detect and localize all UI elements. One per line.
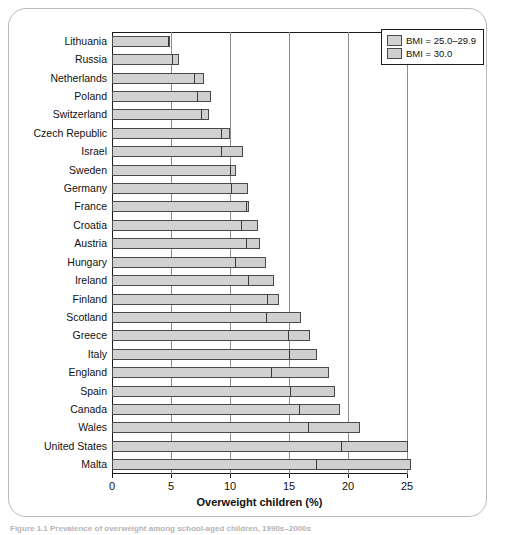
category-label: Austria xyxy=(74,238,107,249)
legend-label: BMI = 30.0 xyxy=(406,49,452,59)
bar-row: Malta xyxy=(112,459,407,470)
category-label: Sweden xyxy=(69,165,107,176)
category-label: Hungary xyxy=(67,257,107,268)
category-label: Greece xyxy=(73,330,107,341)
bar-segment-obese xyxy=(221,128,230,139)
bar-segment-overweight xyxy=(112,330,289,341)
bar-segment-overweight xyxy=(112,183,232,194)
stacked-bar xyxy=(112,459,411,470)
category-label: France xyxy=(74,201,107,212)
tick-label-10: 10 xyxy=(224,480,236,492)
category-label: Wales xyxy=(78,422,107,433)
bar-segment-overweight xyxy=(112,220,242,231)
category-label: Italy xyxy=(88,349,107,360)
bar-segment-obese xyxy=(308,422,360,433)
legend-item: BMI = 25.0–29.9 xyxy=(387,34,476,47)
bar-row: England xyxy=(112,367,407,378)
bar-row: Czech Republic xyxy=(112,128,407,139)
legend-label: BMI = 25.0–29.9 xyxy=(406,36,476,46)
bar-segment-overweight xyxy=(112,73,195,84)
bar-segment-obese xyxy=(267,294,279,305)
stacked-bar xyxy=(112,349,317,360)
bar-row: Croatia xyxy=(112,220,407,231)
category-label: Canada xyxy=(70,404,107,415)
category-label: Russia xyxy=(75,54,107,65)
stacked-bar xyxy=(112,238,260,249)
bar-segment-obese xyxy=(246,201,250,212)
stacked-bar xyxy=(112,73,204,84)
category-label: Germany xyxy=(64,183,107,194)
bar-segment-obese xyxy=(289,349,317,360)
category-label: Netherlands xyxy=(50,73,107,84)
bar-row: Greece xyxy=(112,330,407,341)
category-label: Finland xyxy=(73,294,107,305)
category-label: Spain xyxy=(80,386,107,397)
category-label: England xyxy=(68,367,107,378)
bar-row: Israel xyxy=(112,146,407,157)
stacked-bar xyxy=(112,36,170,47)
bar-segment-obese xyxy=(197,91,211,102)
tick-mark-0 xyxy=(112,474,113,478)
tick-mark-25 xyxy=(407,474,408,478)
bar-segment-obese xyxy=(246,238,260,249)
tick-label-0: 0 xyxy=(109,480,115,492)
bar-segment-overweight xyxy=(112,349,290,360)
stacked-bar xyxy=(112,146,243,157)
stacked-bar xyxy=(112,109,209,120)
bar-segment-overweight xyxy=(112,386,291,397)
bar-row: Lithuania xyxy=(112,36,407,47)
bar-segment-obese xyxy=(172,54,179,65)
bar-segment-obese xyxy=(290,386,335,397)
tick-mark-5 xyxy=(171,474,172,478)
bar-row: Switzerland xyxy=(112,109,407,120)
stacked-bar xyxy=(112,183,248,194)
tick-label-5: 5 xyxy=(168,480,174,492)
legend-swatch-icon xyxy=(387,48,402,59)
stacked-bar xyxy=(112,91,211,102)
bar-segment-obese xyxy=(241,220,259,231)
stacked-bar xyxy=(112,257,266,268)
bar-row: Sweden xyxy=(112,165,407,176)
bar-segment-obese xyxy=(341,441,408,452)
stacked-bar xyxy=(112,441,408,452)
category-label: Poland xyxy=(74,91,107,102)
stacked-bar xyxy=(112,404,340,415)
category-label: Ireland xyxy=(75,275,107,286)
bar-segment-obese xyxy=(201,109,209,120)
bar-row: Ireland xyxy=(112,275,407,286)
bar-row: Wales xyxy=(112,422,407,433)
tick-label-25: 25 xyxy=(401,480,413,492)
bar-segment-overweight xyxy=(112,201,247,212)
stacked-bar xyxy=(112,294,279,305)
bar-segment-obese xyxy=(194,73,205,84)
bar-row: Germany xyxy=(112,183,407,194)
bar-segment-obese xyxy=(231,183,248,194)
x-axis-title: Overweight children (%) xyxy=(112,496,407,508)
category-label: Malta xyxy=(81,459,107,470)
stacked-bar xyxy=(112,275,274,286)
bar-segment-overweight xyxy=(112,109,202,120)
bar-segment-overweight xyxy=(112,422,309,433)
bar-row: Italy xyxy=(112,349,407,360)
bar-segment-overweight xyxy=(112,294,268,305)
bar-segment-overweight xyxy=(112,165,231,176)
bar-segment-overweight xyxy=(112,312,267,323)
plot-area: LithuaniaRussiaNetherlandsPolandSwitzerl… xyxy=(112,32,407,474)
bar-segment-overweight xyxy=(112,459,317,470)
stacked-bar xyxy=(112,422,360,433)
stacked-bar xyxy=(112,54,179,65)
category-label: United States xyxy=(44,441,107,452)
bar-row: Scotland xyxy=(112,312,407,323)
stacked-bar xyxy=(112,386,335,397)
category-label: Lithuania xyxy=(64,36,107,47)
bar-segment-obese xyxy=(221,146,243,157)
bar-row: France xyxy=(112,201,407,212)
bar-segment-obese xyxy=(299,404,340,415)
figure-caption: Figure 1.1 Prevalence of overweight amon… xyxy=(10,524,495,535)
bar-row: United States xyxy=(112,441,407,452)
bar-segment-obese xyxy=(235,257,266,268)
bar-segment-obese xyxy=(230,165,236,176)
stacked-bar xyxy=(112,128,230,139)
bar-segment-overweight xyxy=(112,441,342,452)
bar-segment-overweight xyxy=(112,91,198,102)
